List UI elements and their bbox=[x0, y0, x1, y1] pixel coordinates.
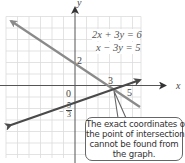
x-axis-label: x bbox=[176, 81, 180, 91]
equation-line2-label: x − 3y = 5 bbox=[96, 42, 140, 54]
callout-line: cannot be found from bbox=[86, 139, 182, 149]
callout-line: the point of intersection bbox=[86, 129, 182, 139]
intersection-callout: The exact coordinates of the point of in… bbox=[85, 117, 183, 161]
x-intercept-label-line1: 3 bbox=[108, 76, 113, 86]
callout-pointer bbox=[114, 91, 126, 118]
y-axis-label: y bbox=[77, 0, 81, 8]
fraction-denominator: 3 bbox=[67, 111, 71, 118]
negative-sign: − bbox=[59, 108, 64, 115]
callout-line: The exact coordinates of bbox=[86, 119, 182, 129]
x-intercept-label-line2: 5 bbox=[127, 88, 132, 98]
y-intercept-label-line1: 2 bbox=[77, 56, 82, 66]
fraction-numerator: 5 bbox=[67, 102, 71, 109]
origin-label: 0 bbox=[66, 89, 71, 99]
callout-line: the graph. bbox=[86, 149, 182, 159]
equation-line1-label: 2x + 3y = 6 bbox=[92, 29, 140, 41]
